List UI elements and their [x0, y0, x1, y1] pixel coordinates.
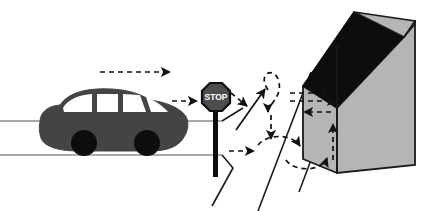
stop-sign-label: STOP — [205, 92, 228, 102]
illustration-canvas: STOP — [0, 0, 436, 211]
car-rear-wheel — [71, 130, 97, 156]
stop-sign-post — [213, 105, 218, 177]
car-front-wheel — [134, 130, 160, 156]
car-window-rear-door — [97, 94, 118, 112]
